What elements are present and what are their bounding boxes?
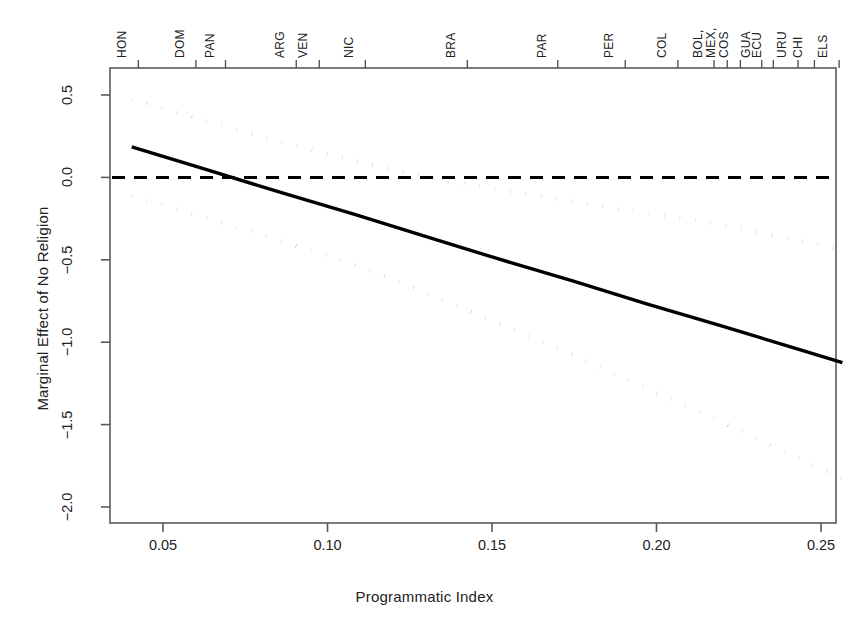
x-tick-label: 0.10 — [313, 537, 341, 553]
country-tick-label: HON — [130, 0, 146, 58]
country-tick-label-text: PAR — [534, 33, 550, 58]
country-tick-label: COL — [670, 0, 686, 58]
country-tick-label: PAR — [550, 0, 566, 58]
country-tick-label-text: URU — [774, 31, 790, 58]
country-tick-label-text: ARG — [272, 31, 288, 58]
y-tick-label-text: −2.0 — [57, 477, 77, 537]
plot-canvas — [0, 0, 849, 635]
x-tick-label: 0.15 — [478, 537, 506, 553]
x-tick-label: 0.25 — [807, 537, 835, 553]
y-tick-label: −1.5 — [37, 415, 97, 435]
country-tick-label: PER — [617, 0, 633, 58]
y-tick-label-text: 0.0 — [57, 147, 77, 207]
country-tick-label-text: PER — [601, 32, 617, 58]
country-tick-label: VEN — [311, 0, 327, 58]
y-tick-label-text: −0.5 — [57, 230, 77, 290]
y-tick-label-text: −1.5 — [57, 395, 77, 455]
y-axis-title: Marginal Effect of No Religion — [34, 159, 51, 459]
country-tick-label-text: HON — [114, 30, 130, 58]
country-tick-label-text: CHI — [790, 36, 806, 58]
y-tick-label: −2.0 — [37, 497, 97, 517]
marginal-effect-chart: Marginal Effect of No Religion Programma… — [0, 0, 849, 635]
upper-confidence-band — [132, 99, 843, 249]
country-tick-label: BRA — [459, 0, 475, 58]
country-tick-label-text: BRA — [443, 32, 459, 58]
x-tick-label: 0.05 — [149, 537, 177, 553]
country-tick-label-text: PAN — [202, 33, 218, 58]
y-tick-label-text: 0.5 — [57, 65, 77, 125]
marginal-effect-line — [132, 147, 843, 363]
country-tick-label-text: ECU — [749, 32, 765, 58]
country-tick-label: NIC — [357, 0, 373, 58]
y-tick-label: 0.5 — [37, 85, 97, 105]
country-tick-label: PAN — [218, 0, 234, 58]
country-tick-label-text: ELS — [815, 34, 831, 58]
y-tick-label: 0.0 — [37, 167, 97, 187]
country-tick-label-text: NIC — [341, 36, 357, 58]
country-tick-label-text: COS — [716, 31, 732, 58]
y-tick-label: −0.5 — [37, 250, 97, 270]
country-tick-label-text: COL — [654, 32, 670, 58]
lower-confidence-band — [132, 196, 843, 478]
country-tick-label-text: DOM — [172, 29, 188, 58]
y-tick-label: −1.0 — [37, 332, 97, 352]
plot-border — [110, 68, 836, 523]
x-axis-title: Programmatic Index — [0, 588, 849, 605]
x-tick-label: 0.20 — [642, 537, 670, 553]
y-tick-label-text: −1.0 — [57, 312, 77, 372]
country-tick-label-text: VEN — [295, 32, 311, 58]
country-tick-label: ELS — [831, 0, 847, 58]
